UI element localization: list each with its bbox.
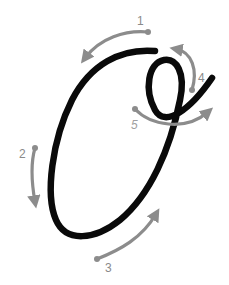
letter-o-stroke	[51, 51, 212, 236]
arrow-3-start-dot	[94, 256, 100, 262]
arrow-4-start-dot	[189, 87, 195, 93]
arrow-5-start-dot	[132, 106, 138, 112]
arrow-1-start-dot	[145, 29, 151, 35]
step-label-2: 2	[19, 148, 26, 160]
step-label-1: 1	[137, 15, 144, 27]
stroke-order-diagram	[0, 0, 229, 285]
step-label-5: 5	[131, 119, 138, 131]
step-label-4: 4	[198, 72, 205, 84]
arrow-step-3	[97, 214, 156, 259]
arrow-step-2	[32, 148, 35, 202]
step-label-3: 3	[105, 262, 112, 274]
arrow-2-start-dot	[32, 145, 38, 151]
